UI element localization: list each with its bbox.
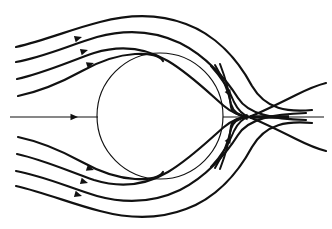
streamline-upper-streamline-4 xyxy=(18,54,163,96)
flow-arrow-axis-upstream-0 xyxy=(71,114,79,120)
streamline-upper-streamline-2 xyxy=(16,32,306,120)
streamline-lower-separatrix-out xyxy=(249,117,326,151)
streamline-upper-streamline-1 xyxy=(16,16,312,110)
streamline-lower-streamline-4 xyxy=(18,137,163,179)
flow-arrow-lower-streamline-2-0 xyxy=(80,178,89,186)
streamline-lower-streamline-3 xyxy=(17,117,250,184)
streamline-upper-separatrix-out xyxy=(249,83,326,117)
streamline-lower-streamline-2 xyxy=(16,113,306,201)
flow-arrow-upper-streamline-2-0 xyxy=(80,47,89,55)
obstacle-circle xyxy=(97,53,223,179)
streamline-canvas xyxy=(0,0,332,229)
streamline-figure xyxy=(0,0,332,229)
streamline-lower-streamline-1 xyxy=(16,122,312,216)
streamline-paths-group xyxy=(10,16,326,217)
